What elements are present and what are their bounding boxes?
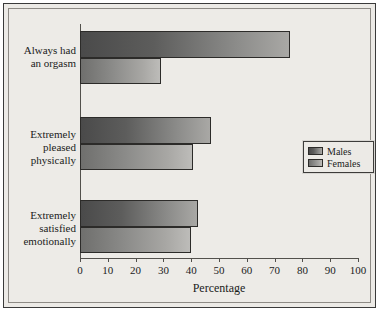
bar-males-1	[80, 117, 211, 144]
x-tick-label: 10	[93, 264, 123, 276]
bar-males-2	[80, 200, 198, 227]
x-tick-label: 90	[315, 264, 345, 276]
plot-area: Always had an orgasm Extremely pleased p…	[4, 4, 377, 309]
x-tick-mark	[163, 258, 164, 262]
legend-swatch-females-icon	[308, 159, 323, 167]
legend-swatch-males-icon	[308, 147, 323, 155]
category-label-2: Extremely satisfied emotionally	[23, 209, 76, 248]
x-tick-mark	[330, 258, 331, 262]
x-tick-mark	[302, 258, 303, 262]
legend-item-males: Males	[308, 145, 369, 157]
x-tick-mark	[247, 258, 248, 262]
x-tick-mark	[358, 258, 359, 262]
category-label-0: Always had an orgasm	[24, 44, 76, 70]
legend-item-females: Females	[308, 157, 369, 169]
x-tick-mark	[219, 258, 220, 262]
x-tick-mark	[191, 258, 192, 262]
legend: Males Females	[303, 141, 374, 173]
x-tick-label: 50	[204, 264, 234, 276]
x-tick-label: 20	[121, 264, 151, 276]
x-tick-label: 0	[65, 264, 95, 276]
x-tick-label: 60	[232, 264, 262, 276]
x-tick-mark	[136, 258, 137, 262]
x-tick-label: 100	[343, 264, 373, 276]
bar-males-0	[80, 31, 290, 58]
x-tick-label: 40	[176, 264, 206, 276]
x-tick-mark	[108, 258, 109, 262]
legend-label-females: Females	[327, 158, 360, 169]
x-tick-mark	[275, 258, 276, 262]
bar-females-2	[80, 227, 191, 253]
x-tick-label: 80	[287, 264, 317, 276]
legend-label-males: Males	[327, 146, 351, 157]
chart-outer-frame: Always had an orgasm Extremely pleased p…	[3, 3, 376, 308]
x-axis-title: Percentage	[80, 281, 358, 296]
x-tick-mark	[80, 258, 81, 262]
category-label-1: Extremely pleased physically	[30, 128, 76, 167]
bar-females-1	[80, 144, 193, 170]
x-tick-label: 30	[148, 264, 178, 276]
bar-females-0	[80, 58, 161, 84]
x-tick-label: 70	[260, 264, 290, 276]
